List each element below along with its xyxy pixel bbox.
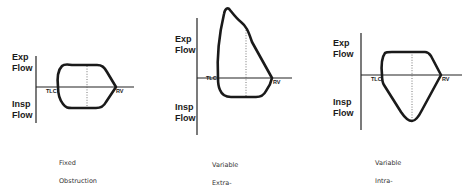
insp-label-line2: Flow [12, 110, 33, 120]
rv-label: RV [116, 88, 124, 94]
panel-extrathoracic: Exp Flow Insp Flow TLC RV [175, 8, 292, 135]
exp-label-line2: Flow [333, 49, 354, 59]
insp-label-line2: Flow [333, 108, 354, 118]
caption-line: Obstruction [59, 177, 97, 186]
rv-label: RV [273, 79, 281, 85]
tlc-label: TLC [206, 75, 217, 81]
flow-volume-loop [218, 8, 272, 97]
insp-label-line2: Flow [175, 113, 196, 123]
insp-label-line1: Insp [333, 97, 352, 107]
caption-line: Extra- [212, 179, 250, 188]
panel-fixed: Exp Flow Insp Flow TLC RV [12, 52, 134, 123]
exp-label-line2: Flow [12, 63, 33, 73]
caption-line: Variable [375, 159, 413, 168]
exp-label-line1: Exp [12, 52, 29, 62]
panel-intrathoracic: Exp Flow Insp Flow TLC RV [333, 33, 462, 130]
exp-label-line1: Exp [333, 38, 350, 48]
insp-label-line1: Insp [175, 102, 194, 112]
rv-label: RV [442, 76, 450, 82]
flow-volume-loop [58, 64, 116, 108]
caption-extrathoracic: Variable Extra- thoracic Obstruction [212, 152, 250, 190]
tlc-label: TLC [46, 88, 57, 94]
insp-label-line1: Insp [12, 99, 31, 109]
tlc-label: TLC [371, 76, 382, 82]
exp-label-line2: Flow [175, 45, 196, 55]
caption-intrathoracic: Variable Intra- thoracic Obstruction [375, 150, 413, 190]
caption-line: Intra- [375, 177, 413, 186]
caption-line: Fixed [59, 159, 97, 168]
caption-fixed: Fixed Obstruction [59, 150, 97, 190]
exp-label-line1: Exp [175, 34, 192, 44]
flow-volume-loop [382, 52, 441, 121]
caption-line: Variable [212, 161, 250, 170]
